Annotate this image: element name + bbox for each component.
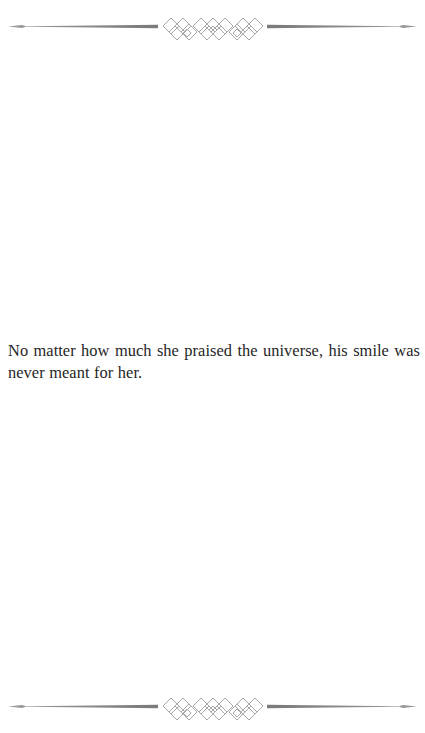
paragraph: No matter how much she praised the unive… <box>8 340 420 384</box>
bottom-divider <box>0 692 425 732</box>
page-content: No matter how much she praised the unive… <box>8 340 420 384</box>
top-divider <box>0 6 425 46</box>
ornamental-divider-icon <box>0 692 425 732</box>
ornamental-divider-icon <box>0 6 425 46</box>
